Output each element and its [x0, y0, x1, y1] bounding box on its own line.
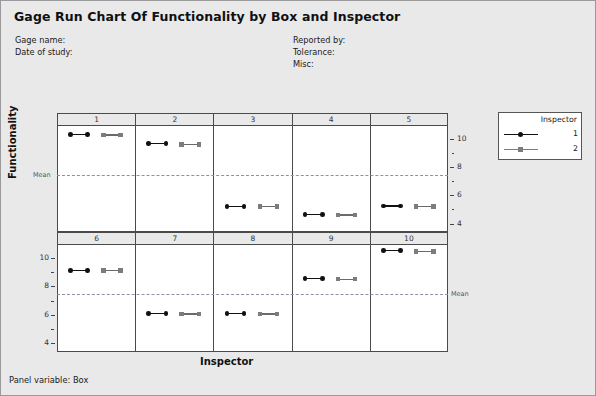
legend-label: 2 [573, 144, 578, 153]
square-marker [275, 204, 279, 208]
square-marker [431, 249, 435, 253]
mean-label-left: Mean [33, 171, 51, 179]
legend-entry-1: 1 [499, 127, 583, 141]
panel-header-8: 8 [213, 232, 291, 245]
panel-cell-4 [292, 126, 370, 232]
panel-cell-9 [292, 245, 370, 352]
y-tick-top-10 [450, 139, 454, 140]
circle-marker [381, 248, 386, 253]
y-tick-label-bottom-10: 10 [35, 253, 49, 262]
panel-header-2: 2 [135, 113, 213, 126]
panel-cell-3 [213, 126, 291, 232]
circle-marker [225, 311, 230, 316]
circle-marker [85, 132, 90, 137]
square-marker [258, 204, 262, 208]
y-tick-top-8 [450, 167, 454, 168]
circle-marker [164, 311, 169, 316]
circle-marker [303, 212, 308, 217]
y-tick-label-top-4: 4 [457, 219, 462, 228]
panel-cell-5 [370, 126, 448, 232]
y-tick-top-4 [450, 224, 454, 225]
panel-header-4: 4 [292, 113, 370, 126]
panel-header-1: 1 [57, 113, 135, 126]
y-tick-bottom-4 [51, 343, 55, 344]
circle-marker [320, 212, 325, 217]
circle-marker [381, 204, 386, 209]
square-marker [197, 142, 201, 146]
panel-header-10: 10 [370, 232, 448, 245]
panel-header-7: 7 [135, 232, 213, 245]
square-marker [414, 204, 418, 208]
misc-label: Misc: [293, 59, 314, 69]
square-marker [197, 312, 201, 316]
circle-marker [242, 311, 247, 316]
y-minor-tick-bottom-5 [51, 329, 54, 330]
circle-marker [398, 248, 403, 253]
mean-label-right: Mean [451, 290, 469, 298]
square-marker [336, 213, 340, 217]
circle-marker [68, 268, 73, 273]
panel-header-9: 9 [292, 232, 370, 245]
legend-entry-2: 2 [499, 142, 583, 156]
mean-line [57, 294, 448, 295]
panel-cell-8 [213, 245, 291, 352]
reported-by-label: Reported by: [293, 35, 345, 45]
square-marker [336, 277, 340, 281]
page-title: Gage Run Chart Of Functionality by Box a… [14, 9, 400, 24]
mean-line [57, 175, 448, 176]
panel-variable-footer: Panel variable: Box [9, 375, 88, 385]
circle-marker [242, 204, 247, 209]
y-tick-label-top-10: 10 [457, 134, 467, 143]
tolerance-label: Tolerance: [293, 47, 335, 57]
panel-cell-2 [135, 126, 213, 232]
y-tick-bottom-8 [51, 286, 55, 287]
circle-marker [303, 276, 308, 281]
circle-marker [320, 276, 325, 281]
circle-marker [164, 141, 169, 146]
panel-header-5: 5 [370, 113, 448, 126]
y-tick-label-top-6: 6 [457, 190, 462, 199]
square-marker [353, 277, 357, 281]
y-minor-tick-top-5 [452, 209, 455, 210]
y-tick-bottom-6 [51, 315, 55, 316]
circle-marker [225, 204, 230, 209]
circle-marker [398, 204, 403, 209]
panel-row-bottom: 678910 [57, 232, 448, 352]
square-marker [258, 312, 262, 316]
square-marker [518, 147, 523, 152]
square-marker [101, 133, 105, 137]
y-tick-bottom-10 [51, 258, 55, 259]
y-minor-tick-top-7 [452, 181, 455, 182]
y-minor-tick-bottom-9 [51, 272, 54, 273]
square-marker [431, 204, 435, 208]
circle-marker [146, 141, 151, 146]
panel-row-top: 12345 [57, 113, 448, 232]
legend-title: Inspector [541, 115, 577, 124]
y-tick-label-bottom-8: 8 [35, 281, 49, 290]
legend-label: 1 [573, 129, 578, 138]
panel-cell-10 [370, 245, 448, 352]
x-axis-title: Inspector [200, 356, 253, 367]
circle-marker [146, 311, 151, 316]
circle-marker [85, 268, 90, 273]
y-tick-top-6 [450, 195, 454, 196]
circle-marker [68, 132, 73, 137]
panel-header-3: 3 [213, 113, 291, 126]
panel-cell-7 [135, 245, 213, 352]
gage-name-label: Gage name: [15, 35, 65, 45]
y-tick-label-bottom-4: 4 [35, 338, 49, 347]
chart-window: Gage Run Chart Of Functionality by Box a… [0, 0, 596, 396]
y-tick-label-bottom-6: 6 [35, 310, 49, 319]
circle-marker [518, 132, 523, 137]
square-marker [118, 268, 122, 272]
legend: Inspector 12 [498, 112, 582, 160]
square-marker [179, 142, 183, 146]
date-of-study-label: Date of study: [15, 47, 73, 57]
y-minor-tick-bottom-7 [51, 301, 54, 302]
square-marker [353, 213, 357, 217]
panel-cell-1 [57, 126, 135, 232]
square-marker [101, 268, 105, 272]
plot-area: 12345 678910 [57, 113, 448, 352]
panel-header-6: 6 [57, 232, 135, 245]
panel-cell-6 [57, 245, 135, 352]
